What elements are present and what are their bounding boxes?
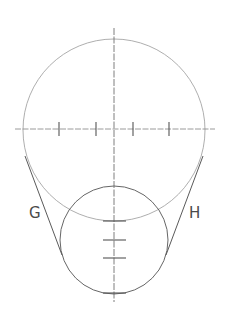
vertical-axis-ticks xyxy=(103,221,126,293)
label-g: G xyxy=(29,204,41,222)
label-h: H xyxy=(189,204,200,222)
construction-diagram: G H xyxy=(0,0,226,318)
